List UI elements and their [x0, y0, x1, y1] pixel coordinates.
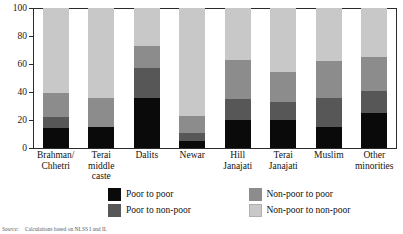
legend-swatch-nn	[249, 204, 262, 217]
bar-segment-pn	[316, 98, 342, 127]
y-tick-label-100: 100	[13, 4, 27, 13]
bar-segment-np	[361, 57, 387, 91]
legend-item-pp[interactable]: Poor to poor	[108, 188, 229, 201]
bar-segment-nn	[316, 8, 342, 61]
x-label-line: Chhetri	[33, 161, 79, 172]
bar-segment-pp	[225, 120, 251, 148]
x-label-line: middle caste	[78, 161, 124, 182]
bar-segment-pp	[270, 120, 296, 148]
plot-area: 020406080100	[33, 8, 397, 148]
legend-label: Non-poor to non-poor	[267, 205, 351, 216]
x-label-line: Muslim	[306, 150, 352, 161]
legend-item-pn[interactable]: Poor to non-poor	[108, 204, 229, 217]
x-label-line: Other	[351, 150, 397, 161]
x-label-line: Dalits	[124, 150, 170, 161]
bar-segment-np	[43, 93, 69, 117]
x-label-2: Dalits	[124, 150, 170, 161]
x-label-1: Teraimiddle caste	[78, 150, 124, 182]
bar-other-minorities[interactable]	[361, 8, 387, 148]
legend-label: Non-poor to poor	[267, 189, 334, 200]
bar-hill-janajati[interactable]	[225, 8, 251, 148]
bar-segment-np	[270, 72, 296, 101]
bar-dalits[interactable]	[134, 8, 160, 148]
footnote-label: Source:	[2, 226, 19, 233]
legend-label: Poor to non-poor	[126, 205, 191, 216]
chart-legend: Poor to poorNon-poor to poorPoor to non-…	[108, 188, 388, 217]
stacked-bar-chart: 020406080100 Brahman/ChhetriTeraimiddle …	[0, 0, 403, 234]
bar-segment-pp	[88, 127, 114, 148]
x-axis-category-labels: Brahman/ChhetriTeraimiddle casteDalitsNe…	[33, 150, 397, 180]
bar-segment-pn	[179, 133, 205, 141]
bar-segment-pp	[43, 128, 69, 148]
bar-segment-np	[179, 116, 205, 133]
x-label-line: Hill	[215, 150, 261, 161]
bar-terai-middle-caste[interactable]	[88, 8, 114, 148]
bar-segment-nn	[225, 8, 251, 60]
x-label-6: Muslim	[306, 150, 352, 161]
bar-segment-pp	[179, 141, 205, 148]
x-label-line: Terai	[260, 150, 306, 161]
bar-terai-janajati[interactable]	[270, 8, 296, 148]
x-label-line: Brahman/	[33, 150, 79, 161]
legend-swatch-np	[249, 188, 262, 201]
bar-brahman-chhetri[interactable]	[43, 8, 69, 148]
x-label-7: Otherminorities	[351, 150, 397, 171]
bar-segment-nn	[134, 8, 160, 46]
x-label-5: TeraiJanajati	[260, 150, 306, 171]
bar-segment-nn	[88, 8, 114, 98]
x-axis-line	[33, 148, 397, 149]
bar-segment-pp	[134, 98, 160, 148]
x-label-line: minorities	[351, 161, 397, 172]
bar-muslim[interactable]	[316, 8, 342, 148]
x-label-4: HillJanajati	[215, 150, 261, 171]
bar-segment-nn	[361, 8, 387, 57]
y-tick-label-20: 20	[18, 116, 28, 125]
legend-item-np[interactable]: Non-poor to poor	[249, 188, 389, 201]
legend-swatch-pp	[108, 188, 121, 201]
x-label-line: Janajati	[215, 161, 261, 172]
bar-segment-pp	[361, 113, 387, 148]
bar-segment-pn	[134, 68, 160, 97]
source-footnote: Source: Calculations based on NLSS I and…	[2, 226, 107, 233]
bar-segment-nn	[179, 8, 205, 116]
legend-label: Poor to poor	[126, 189, 174, 200]
bar-segment-np	[316, 61, 342, 97]
x-label-line: Terai	[78, 150, 124, 161]
x-label-line: Janajati	[260, 161, 306, 172]
bar-segment-np	[88, 98, 114, 127]
x-label-3: Newar	[169, 150, 215, 161]
bar-segment-nn	[270, 8, 296, 72]
y-tick-label-80: 80	[18, 32, 28, 41]
y-tick-0	[29, 148, 33, 149]
bar-newar[interactable]	[179, 8, 205, 148]
bar-segment-nn	[43, 8, 69, 93]
footnote-text: Calculations based on NLSS I and II.	[25, 226, 107, 233]
x-label-line: Newar	[169, 150, 215, 161]
y-tick-label-60: 60	[18, 60, 28, 69]
bar-segment-pp	[316, 127, 342, 148]
bar-segment-pn	[361, 91, 387, 113]
bar-segment-pn	[43, 117, 69, 128]
bar-segment-pn	[225, 99, 251, 120]
x-label-0: Brahman/Chhetri	[33, 150, 79, 171]
y-tick-label-0: 0	[22, 144, 27, 153]
y-tick-label-40: 40	[18, 88, 28, 97]
bar-segment-np	[225, 60, 251, 99]
legend-swatch-pn	[108, 204, 121, 217]
bar-group	[33, 8, 397, 148]
bar-segment-np	[134, 46, 160, 68]
bar-segment-pn	[270, 102, 296, 120]
legend-item-nn[interactable]: Non-poor to non-poor	[249, 204, 389, 217]
